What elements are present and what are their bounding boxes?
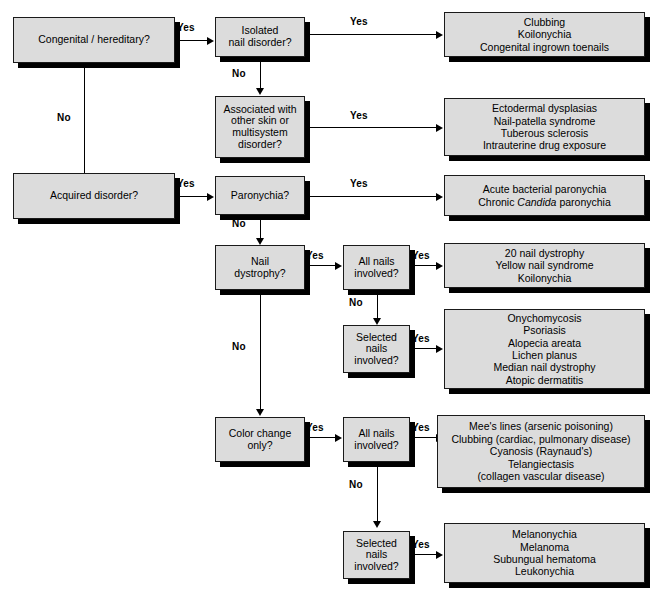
node-associated-line-2: multisystem	[219, 127, 301, 139]
edge-naildystrophy-yes	[305, 265, 336, 266]
node-isolated-line-1: nail disorder?	[219, 37, 301, 49]
node-selectednails2-line-2: involved?	[347, 561, 406, 573]
outcome-selectednails2-line-0: Melanonychia	[448, 528, 641, 540]
arrowhead-acquired-yes	[207, 193, 214, 201]
outcome-allnails1-line-0: 20 nail dystrophy	[448, 247, 641, 259]
edge-label-colorchange-yes: Yes	[306, 422, 324, 433]
outcome-associated-disorder[interactable]: Ectodermal dysplasias Nail-patella syndr…	[444, 98, 645, 156]
node-acquired-line-0: Acquired disorder?	[17, 190, 171, 202]
outcome-paronychia-line-1: Chronic Candida paronychia	[448, 196, 641, 208]
edge-allnails1-yes	[410, 265, 437, 266]
outcome-allnails2-line-0: Mee's lines (arsenic poisoning)	[441, 420, 641, 432]
edge-allnails2-no	[377, 462, 378, 524]
edge-label-congenital-no: No	[57, 112, 71, 123]
outcome-selectednails2-line-3: Leukonychia	[448, 565, 641, 577]
edge-congenital-no	[84, 63, 85, 175]
node-colorchange-line-0: Color change	[219, 428, 301, 440]
node-allnails1-line-0: All nails	[347, 256, 406, 268]
outcome-isolated-nail-disorder[interactable]: Clubbing Koilonychia Congenital ingrown …	[444, 12, 645, 57]
edge-associated-yes	[305, 127, 437, 128]
edge-label-allnails2-yes: Yes	[412, 422, 430, 433]
outcome-isolated-line-2: Congenital ingrown toenails	[448, 41, 641, 53]
edge-allnails1-no	[377, 290, 378, 320]
edge-label-allnails2-no: No	[349, 479, 363, 490]
node-selected-nails-involved-1[interactable]: Selected nails involved?	[343, 325, 410, 373]
node-selected-nails-involved-2[interactable]: Selected nails involved?	[343, 531, 410, 579]
edge-label-selectednails1-yes: Yes	[412, 333, 430, 344]
edge-isolated-no	[260, 57, 261, 90]
outcome-selectednails1-line-3: Lichen planus	[448, 349, 641, 361]
outcome-selectednails1-line-0: Onychomycosis	[448, 312, 641, 324]
outcome-paronychia-line-0: Acute bacterial paronychia	[448, 183, 641, 195]
outcome-allnails2-line-3: Telangiectasis	[441, 458, 641, 470]
node-naildystrophy-line-0: Nail	[219, 256, 301, 268]
arrowhead-naildystrophy-yes	[335, 262, 342, 270]
outcome-isolated-line-1: Koilonychia	[448, 28, 641, 40]
arrowhead-congenital-yes	[207, 37, 214, 45]
arrowhead-selectednails2-yes	[436, 551, 443, 559]
node-all-nails-involved-2[interactable]: All nails involved?	[343, 417, 410, 462]
outcome-all-nails-1[interactable]: 20 nail dystrophy Yellow nail syndrome K…	[444, 243, 645, 288]
outcome-selectednails1-line-1: Psoriasis	[448, 324, 641, 336]
node-paronychia[interactable]: Paronychia?	[215, 176, 305, 215]
edge-label-associated-yes: Yes	[350, 110, 368, 121]
node-allnails2-line-1: involved?	[347, 440, 406, 452]
node-color-change-only[interactable]: Color change only?	[215, 417, 305, 462]
outcome-selectednails1-line-2: Alopecia areata	[448, 337, 641, 349]
node-naildystrophy-line-1: dystrophy?	[219, 268, 301, 280]
outcome-paronychia[interactable]: Acute bacterial paronychia Chronic Candi…	[444, 175, 645, 216]
edge-congenital-yes	[175, 40, 208, 41]
node-isolated-nail-disorder[interactable]: Isolated nail disorder?	[215, 17, 305, 57]
edge-label-naildystrophy-no: No	[232, 341, 246, 352]
arrowhead-isolated-yes	[436, 31, 443, 39]
node-congenital-hereditary[interactable]: Congenital / hereditary?	[13, 17, 175, 63]
outcome-selected-nails-1[interactable]: Onychomycosis Psoriasis Alopecia areata …	[444, 309, 645, 389]
node-paronychia-line-0: Paronychia?	[219, 190, 301, 202]
node-acquired-disorder[interactable]: Acquired disorder?	[13, 173, 175, 219]
edge-label-isolated-no: No	[232, 68, 246, 79]
node-allnails1-line-1: involved?	[347, 268, 406, 280]
outcome-allnails1-line-1: Yellow nail syndrome	[448, 259, 641, 271]
arrowhead-associated-yes	[436, 124, 443, 132]
outcome-selectednails1-line-4: Median nail dystrophy	[448, 361, 641, 373]
node-nail-dystrophy[interactable]: Nail dystrophy?	[215, 245, 305, 290]
edge-label-naildystrophy-yes: Yes	[306, 250, 324, 261]
outcome-isolated-line-0: Clubbing	[448, 16, 641, 28]
arrowhead-allnails1-yes	[436, 262, 443, 270]
outcome-allnails2-line-4: (collagen vascular disease)	[441, 470, 641, 482]
node-associated-other-skin[interactable]: Associated with other skin or multisyste…	[215, 96, 305, 158]
arrowhead-selectednails1-yes	[436, 345, 443, 353]
edge-paronychia-no	[260, 215, 261, 240]
outcome-all-nails-2[interactable]: Mee's lines (arsenic poisoning) Clubbing…	[437, 415, 645, 488]
outcome-associated-line-3: Intrauterine drug exposure	[448, 139, 641, 151]
arrowhead-naildystrophy-no	[256, 409, 264, 416]
outcome-selectednails2-line-2: Subungual hematoma	[448, 553, 641, 565]
edge-label-congenital-yes: Yes	[177, 22, 195, 33]
arrowhead-isolated-no	[256, 88, 264, 95]
edge-selectednails1-yes	[410, 348, 437, 349]
edge-isolated-yes	[305, 34, 437, 35]
edge-label-allnails1-yes: Yes	[412, 250, 430, 261]
edge-paronychia-yes	[305, 196, 437, 197]
edge-allnails2-yes	[410, 437, 437, 438]
edge-colorchange-yes	[305, 437, 336, 438]
arrowhead-colorchange-yes	[335, 434, 342, 442]
edge-selectednails2-yes	[410, 554, 437, 555]
arrowhead-paronychia-yes	[436, 193, 443, 201]
arrowhead-paronychia-no	[256, 238, 264, 245]
outcome-selected-nails-2[interactable]: Melanonychia Melanoma Subungual hematoma…	[444, 523, 645, 583]
edge-acquired-yes	[175, 196, 208, 197]
outcome-selectednails1-line-5: Atopic dermatitis	[448, 374, 641, 386]
node-associated-line-3: disorder?	[219, 139, 301, 151]
node-allnails2-line-0: All nails	[347, 428, 406, 440]
node-selectednails1-line-2: involved?	[347, 355, 406, 367]
node-all-nails-involved-1[interactable]: All nails involved?	[343, 245, 410, 290]
outcome-associated-line-1: Nail-patella syndrome	[448, 115, 641, 127]
arrowhead-allnails2-no	[373, 521, 381, 528]
edge-label-acquired-yes: Yes	[177, 178, 195, 189]
edge-naildystrophy-no	[260, 290, 261, 411]
outcome-associated-line-2: Tuberous sclerosis	[448, 127, 641, 139]
edge-label-selectednails2-yes: Yes	[412, 539, 430, 550]
edge-label-allnails1-no: No	[349, 297, 363, 308]
outcome-allnails2-line-2: Cyanosis (Raynaud's)	[441, 445, 641, 457]
